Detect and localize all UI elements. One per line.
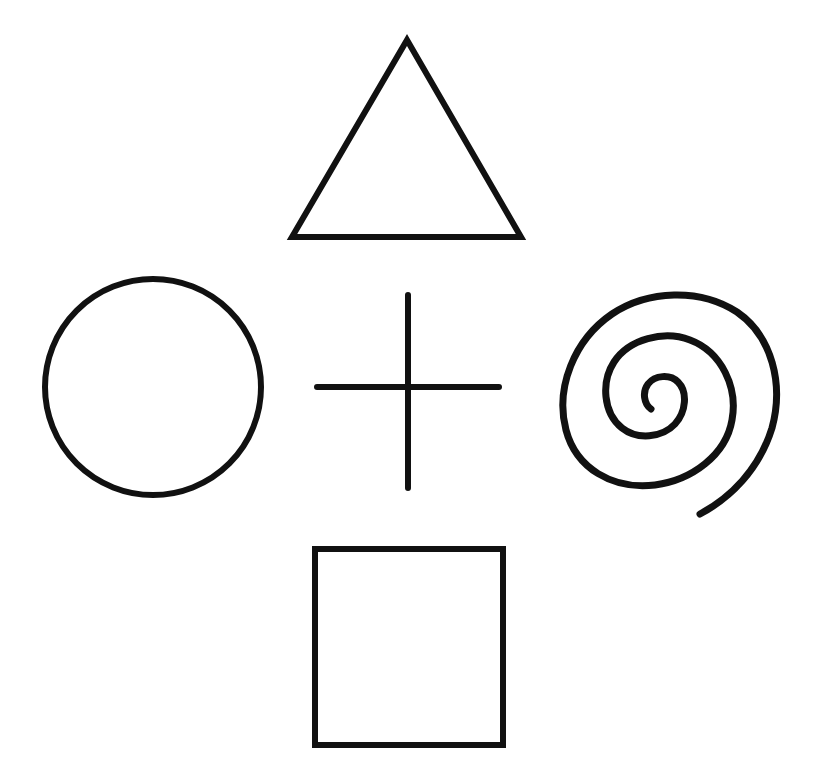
spiral-shape bbox=[563, 295, 777, 514]
circle-shape bbox=[45, 279, 261, 495]
plus-shape bbox=[317, 295, 499, 488]
square-shape bbox=[315, 549, 503, 745]
triangle-shape bbox=[292, 40, 521, 237]
shapes-diagram bbox=[0, 0, 818, 784]
